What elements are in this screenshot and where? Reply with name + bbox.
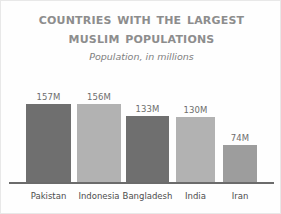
bar [77, 104, 121, 182]
bar [176, 117, 215, 182]
bar-value-label: 130M [184, 105, 208, 115]
bar-value-label: 156M [87, 92, 111, 102]
bar [126, 116, 169, 182]
chart-figure: Countries with the Largest Muslim Popula… [0, 0, 281, 214]
x-axis-line [9, 182, 274, 184]
bar-value-label: 157M [37, 92, 61, 102]
bar [223, 145, 257, 182]
bar-value-label: 133M [136, 104, 160, 114]
bar-group: 133M [126, 116, 169, 182]
bar-group: 74M [223, 145, 257, 182]
bar-group: 157M [26, 104, 71, 182]
plot-area: 157M156M133M130M74M PakistanIndonesiaBan… [1, 1, 281, 214]
bar-value-label: 74M [231, 133, 249, 143]
bar-group: 130M [176, 117, 215, 182]
bar-group: 156M [77, 104, 121, 182]
bar [26, 104, 71, 182]
category-label: Iran [213, 191, 267, 201]
